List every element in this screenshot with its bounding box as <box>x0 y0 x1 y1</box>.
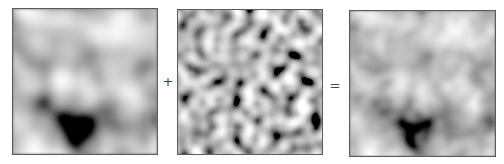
equals-operator: = <box>330 79 341 92</box>
combined-noise-image <box>350 11 495 156</box>
low-frequency-noise-image <box>13 9 157 154</box>
plus-operator: + <box>163 75 174 88</box>
combined-noise-panel <box>349 10 496 157</box>
low-frequency-noise-panel <box>12 8 158 155</box>
high-frequency-noise-image <box>178 10 322 154</box>
high-frequency-noise-panel <box>177 9 323 155</box>
